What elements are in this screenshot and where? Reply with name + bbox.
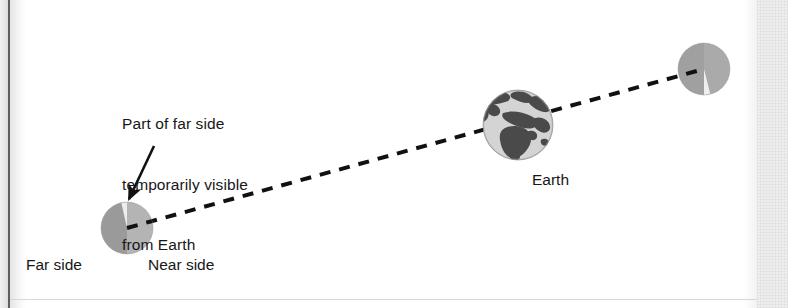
label-earth: Earth <box>532 170 569 190</box>
diagram-scene <box>0 0 788 308</box>
figure-page: Part of far side temporarily visible fro… <box>0 0 788 308</box>
label-near-side: Near side <box>148 255 214 275</box>
callout-line-3: from Earth <box>122 235 248 255</box>
callout-line-2: temporarily visible <box>122 175 248 195</box>
earth-globe <box>481 90 553 161</box>
callout-line-1: Part of far side <box>122 114 248 134</box>
label-far-side: Far side <box>26 255 82 275</box>
